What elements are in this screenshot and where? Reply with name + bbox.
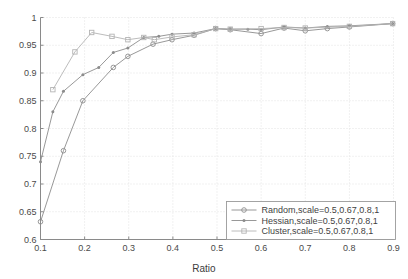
legend-entry-label: Cluster,scale=0.5,0.67,0.8,1 <box>262 226 374 236</box>
y-tick-label: 0.75 <box>19 151 37 161</box>
legend-entry-label: Random,scale=0.5,0.67,0.8,1 <box>262 205 380 215</box>
y-tick-label: 0.65 <box>19 207 37 217</box>
line-chart: 0.10.20.30.40.50.60.70.80.90.60.650.70.7… <box>0 0 408 279</box>
x-axis-title: Ratio <box>0 258 408 276</box>
x-axis-title-text: Ratio <box>192 263 215 274</box>
y-tick-label: 0.7 <box>24 179 37 189</box>
series-cluster <box>51 21 395 91</box>
y-tick-label: 0.6 <box>24 235 37 245</box>
x-tick-label: 0.2 <box>78 243 91 253</box>
x-tick-label: 0.8 <box>343 243 356 253</box>
legend-box[interactable]: Random,scale=0.5,0.67,0.8,1Hessian,scale… <box>227 202 396 240</box>
x-tick-label: 0.9 <box>387 243 400 253</box>
y-tick-label: 0.85 <box>19 96 37 106</box>
y-tick-label: 1 <box>31 13 36 23</box>
x-tick-label: 0.7 <box>299 243 312 253</box>
y-tick-label: 0.8 <box>24 124 37 134</box>
figure-canvas: 0.10.20.30.40.50.60.70.80.90.60.650.70.7… <box>0 0 408 279</box>
x-tick-label: 0.6 <box>255 243 268 253</box>
x-tick-label: 0.5 <box>211 243 224 253</box>
x-tick-label: 0.4 <box>167 243 180 253</box>
x-tick-label: 0.3 <box>122 243 135 253</box>
legend-entry-label: Hessian,scale=0.5,0.67,0.8,1 <box>262 216 378 226</box>
y-tick-label: 0.9 <box>24 68 37 78</box>
y-tick-label: 0.95 <box>19 40 37 50</box>
